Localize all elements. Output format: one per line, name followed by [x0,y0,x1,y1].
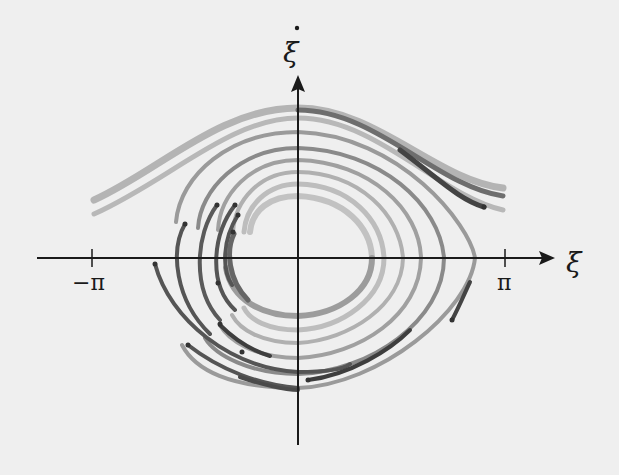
y-axis-label: ξ [283,36,300,69]
tick-label-pi: π [497,270,511,295]
tick-label-neg-pi: −π [72,270,105,295]
phase-portrait-diagram: ξ ξ −π π [0,0,619,475]
x-axis-label: ξ [566,246,583,279]
y-axis-label-dot [295,26,299,30]
